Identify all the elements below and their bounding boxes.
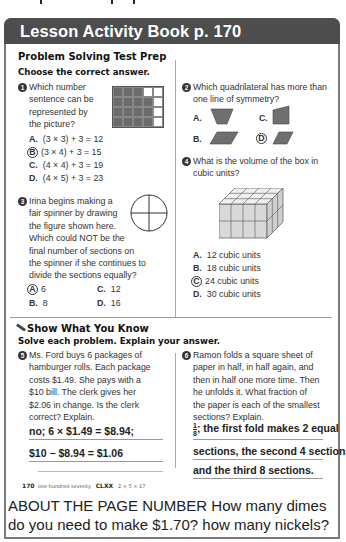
blank-answer-line — [38, 471, 163, 472]
option-text: (4 × 5) + 3 = 23 — [43, 173, 103, 183]
answer-circle: A — [27, 284, 38, 295]
option-letter: D. — [193, 289, 202, 299]
option-text: 18 cubic units — [207, 263, 261, 273]
problem-6: 6Ramon folds a square sheet of paper in … — [182, 349, 320, 423]
option-text: 8 — [43, 298, 48, 308]
question-number-badge: 4 — [182, 157, 191, 166]
trapezoid-shape — [210, 108, 234, 125]
answer-text: ; the first fold makes 2 equal — [197, 422, 339, 434]
option-letter: B. — [193, 134, 202, 144]
question-text: the picture? — [18, 118, 94, 130]
option-a[interactable]: A. — [193, 113, 207, 123]
option-b[interactable]: B. — [193, 134, 207, 144]
question-number-badge: 5 — [18, 351, 27, 360]
section-divider — [10, 317, 332, 318]
option-letter: C. — [29, 160, 38, 170]
cropped-text-fragment — [0, 0, 346, 6]
option-text: 12 cubic units — [207, 250, 261, 260]
option-text: 24 cubic units — [205, 276, 259, 286]
question-text: fair spinner by drawing — [18, 207, 146, 219]
option-letter: C. — [259, 113, 268, 123]
cube-box-figure — [219, 188, 291, 240]
option-letter: C. — [97, 284, 106, 294]
answer-circle: C — [191, 276, 202, 287]
question-text: the figure shown here. — [18, 220, 146, 232]
question-text: cubic units? — [182, 167, 318, 179]
option-text: 16 — [111, 298, 121, 308]
lesson-page-frame: Lesson Activity Book p. 170 Problem Solv… — [4, 18, 340, 539]
question-text: Which quadrilateral has more than — [193, 82, 327, 92]
question-text: one line of symmetry? — [182, 93, 327, 105]
question-text: costs $1.49. She pays with a — [18, 374, 151, 386]
question-text: he unfolds it. What fraction of — [182, 386, 320, 398]
question-text: correct? Explain. — [18, 411, 151, 423]
option-b[interactable]: B.18 cubic units — [193, 263, 261, 273]
question-text: final number of sections on — [18, 245, 146, 257]
question-text: What is the volume of the box in — [193, 156, 318, 166]
option-a[interactable]: A.12 cubic units — [193, 250, 261, 260]
question-2: 2Which quadrilateral has more than one l… — [182, 81, 327, 106]
option-letter: D. — [97, 298, 106, 308]
answer-line: and the third 8 sections. — [193, 464, 323, 479]
question-text: $10 bill. The clerk gives her — [18, 386, 151, 398]
option-d[interactable]: D.(4 × 5) + 3 = 23 — [29, 173, 103, 183]
option-text: (4 × 4) + 3 = 19 — [43, 160, 103, 170]
question-text: paper in half, in half again, and — [182, 361, 320, 373]
answer-line: no; 6 × $1.49 = $8.94; — [29, 425, 163, 440]
option-d[interactable]: D.16 — [97, 298, 121, 308]
question-text: the spinner if she continues to — [18, 257, 146, 269]
spinner-circle-figure — [129, 193, 169, 233]
option-d[interactable]: D.30 cubic units — [193, 289, 261, 299]
option-text: 12 — [111, 284, 121, 294]
question-text: Which could NOT be the — [18, 232, 146, 244]
section-title: Show What You Know — [16, 323, 149, 334]
answer-circle: B — [27, 147, 38, 158]
option-letter: B. — [193, 263, 202, 273]
option-d-selected[interactable]: D — [256, 133, 270, 144]
question-number-badge: 1 — [18, 83, 27, 92]
question-text: Which number — [29, 82, 86, 92]
section-title-text: Show What You Know — [27, 323, 149, 334]
option-letter: A. — [193, 113, 202, 123]
parallelogram-shape — [209, 131, 239, 145]
question-number-badge: 6 — [182, 351, 191, 360]
column-divider — [175, 353, 176, 468]
option-c-selected[interactable]: C24 cubic units — [191, 276, 259, 287]
question-text: Ramon folds a square sheet of — [193, 350, 313, 360]
section-instruction: Choose the correct answer. — [18, 67, 150, 77]
question-text: divide the sections equally? — [18, 269, 146, 281]
page-number: 170 — [22, 482, 35, 489]
option-a-selected[interactable]: A6 — [27, 284, 46, 295]
question-text: $2.06 in change. Is the clerk — [18, 399, 151, 411]
option-c[interactable]: C. — [259, 113, 273, 123]
question-text: the paper is each of the smallest — [182, 399, 320, 411]
question-text: hamburger rolls. Each package — [18, 361, 151, 373]
option-b[interactable]: B.8 — [29, 298, 48, 308]
answer-line: 1 8 ; the first fold makes 2 equal — [193, 422, 323, 440]
option-letter: D. — [29, 173, 38, 183]
page-footer: 170 one hundred seventy CLXX 2 × 5 × 17 — [22, 482, 145, 489]
column-divider — [175, 60, 176, 317]
section-title: Problem Solving Test Prep — [18, 51, 166, 62]
page-header: Lesson Activity Book p. 170 — [4, 18, 340, 44]
option-c[interactable]: C.12 — [97, 284, 121, 294]
option-c[interactable]: C.(4 × 4) + 3 = 19 — [29, 160, 103, 170]
shaded-grid-figure — [112, 86, 164, 128]
page-number-factors: 2 × 5 × 17 — [118, 483, 145, 489]
question-text: sentence can be — [18, 93, 94, 105]
question-text: Irina begins making a — [29, 196, 113, 206]
option-a[interactable]: A.(3 × 3) + 3 = 12 — [29, 134, 103, 144]
option-text: (3 × 3) + 3 = 12 — [43, 134, 103, 144]
page-number-roman: CLXX — [96, 482, 113, 489]
option-text: 6 — [41, 284, 46, 294]
answer-circle: D — [256, 133, 267, 144]
option-text: 30 cubic units — [207, 289, 261, 299]
option-text: (3 × 4) + 3 = 15 — [41, 147, 101, 157]
page-number-words: one hundred seventy — [38, 483, 91, 489]
question-number-badge: 2 — [182, 83, 191, 92]
section-instruction: Solve each problem. Explain your answer. — [18, 336, 220, 346]
option-letter: A. — [193, 250, 202, 260]
rhombus-shape — [272, 131, 294, 145]
option-letter: A. — [29, 134, 38, 144]
option-b-selected[interactable]: B(3 × 4) + 3 = 15 — [27, 147, 101, 158]
